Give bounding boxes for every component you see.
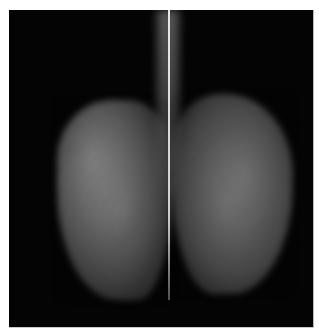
tissue-texture	[57, 100, 173, 300]
right-tissue-region	[171, 94, 293, 294]
center-divider-line	[168, 10, 170, 300]
tissue-texture	[171, 94, 293, 294]
radiograph-image	[9, 10, 314, 328]
left-tissue-region	[57, 100, 173, 300]
